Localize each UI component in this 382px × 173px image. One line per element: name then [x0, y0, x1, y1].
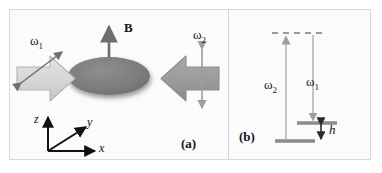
- omega2-label: ω2: [193, 28, 206, 45]
- axis-label-y: y: [87, 116, 92, 128]
- omega1-transition-subscript: 1: [315, 82, 320, 92]
- panel-b: ω2 ω1 h (b): [229, 9, 371, 160]
- panel-label-b: (b): [239, 130, 255, 143]
- omega1-subscript: 1: [39, 41, 44, 51]
- axis-label-z: z: [34, 113, 39, 125]
- left-block-arrow: [17, 56, 75, 101]
- omega2-symbol: ω: [193, 27, 202, 42]
- right-block-arrow: [161, 56, 219, 101]
- h-splitting-label: h: [329, 123, 336, 136]
- axis-label-x: x: [99, 142, 104, 154]
- omega2-transition-label: ω2: [264, 78, 277, 95]
- figure-container: B ω1 ω2 z y x (a): [0, 0, 382, 173]
- panel-label-a: (a): [181, 137, 196, 150]
- omega1-label: ω1: [30, 34, 43, 51]
- omega1-transition-symbol: ω: [306, 74, 315, 89]
- omega1-transition-label: ω1: [306, 75, 319, 92]
- omega2-transition-symbol: ω: [264, 77, 273, 92]
- b-field-label: B: [124, 21, 133, 34]
- omega2-subscript: 2: [202, 35, 207, 45]
- omega2-transition-subscript: 2: [273, 85, 278, 95]
- magnetic-disk: [68, 57, 150, 95]
- panel-a: B ω1 ω2 z y x (a): [9, 9, 228, 160]
- omega1-symbol: ω: [30, 33, 39, 48]
